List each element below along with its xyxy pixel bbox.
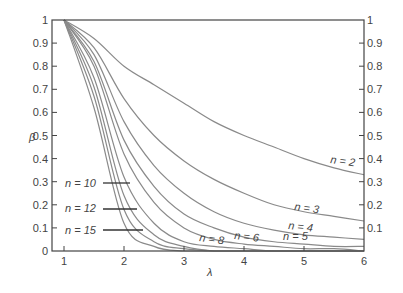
y-tick-label: 0.6 <box>33 106 48 118</box>
curve-n6 <box>64 20 364 251</box>
y-tick-label-right: 0.5 <box>367 130 382 142</box>
label-n8: n = 8 <box>199 231 226 246</box>
y-tick-label: 0.8 <box>33 60 48 72</box>
curve-n2 <box>64 20 364 175</box>
label-n15: n = 15 <box>65 224 97 236</box>
label-n6: n = 6 <box>234 229 261 244</box>
y-tick-label: 0 <box>42 245 48 257</box>
x-tick-label: 4 <box>241 255 247 267</box>
y-tick-label: 1 <box>42 14 48 26</box>
y-tick-label-right: 0.2 <box>367 199 382 211</box>
x-tick-label: 5 <box>301 255 307 267</box>
label-n12: n = 12 <box>65 202 96 214</box>
y-tick-label-right: 0.9 <box>367 37 382 49</box>
y-tick-label-right: 0.8 <box>367 60 382 72</box>
y-tick-label-right: 0.4 <box>367 153 382 165</box>
y-tick-label: 0.7 <box>33 83 48 95</box>
label-n2: n = 2 <box>330 153 356 168</box>
curve-n10 <box>64 20 364 251</box>
y-tick-label-right: 0.7 <box>367 83 382 95</box>
y-tick-label-right: 0.6 <box>367 106 382 118</box>
y-axis-label: β <box>28 131 36 143</box>
curve-n12 <box>64 20 364 251</box>
label-n3: n = 3 <box>294 200 321 215</box>
y-tick-label: 0.3 <box>33 176 48 188</box>
curves <box>64 20 364 251</box>
y-tick-label: 0.4 <box>33 153 48 165</box>
y-tick-label-right: 0.3 <box>367 176 382 188</box>
y-tick-label: 0.2 <box>33 199 48 211</box>
label-n10: n = 10 <box>65 177 97 189</box>
x-axis-label: λ <box>206 266 212 278</box>
y-tick-label: 0.1 <box>33 222 48 234</box>
x-tick-label: 3 <box>181 255 187 267</box>
x-tick-label: 6 <box>361 255 367 267</box>
curve-n3 <box>64 20 364 221</box>
curve-n5 <box>64 20 364 247</box>
curve-n15 <box>64 20 364 251</box>
oc-curve-chart: 00.10.20.30.40.50.60.70.80.910.10.20.30.… <box>0 0 403 293</box>
y-tick-label: 0.9 <box>33 37 48 49</box>
y-tick-label-right: 0.1 <box>367 222 382 234</box>
x-tick-label: 2 <box>121 255 127 267</box>
curve-n8 <box>64 20 364 251</box>
x-tick-label: 1 <box>61 255 67 267</box>
label-n5: n = 5 <box>283 230 309 242</box>
y-tick-label-right: 1 <box>367 14 373 26</box>
